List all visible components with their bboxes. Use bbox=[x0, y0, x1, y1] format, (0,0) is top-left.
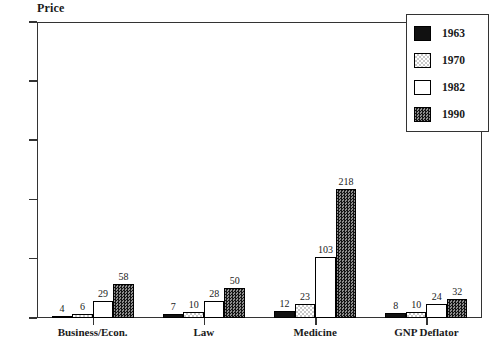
legend-swatch bbox=[414, 53, 431, 68]
bar bbox=[447, 299, 468, 318]
legend-item[interactable]: 1970 bbox=[414, 51, 465, 69]
bar bbox=[336, 189, 357, 318]
bar-value-label: 50 bbox=[230, 275, 240, 286]
bar-value-label: 58 bbox=[118, 271, 128, 282]
bar bbox=[224, 288, 245, 318]
bar-value-label: 6 bbox=[80, 301, 85, 312]
legend-label: 1982 bbox=[442, 81, 465, 93]
bar bbox=[204, 301, 225, 318]
bar-value-label: 24 bbox=[432, 291, 442, 302]
legend-swatch bbox=[414, 107, 431, 122]
bar-value-label: 32 bbox=[452, 286, 462, 297]
bar bbox=[406, 312, 427, 318]
legend-label: 1990 bbox=[442, 108, 465, 120]
legend-item[interactable]: 1963 bbox=[414, 24, 465, 42]
bar-value-label: 28 bbox=[209, 288, 219, 299]
bar bbox=[385, 313, 406, 318]
bar bbox=[315, 257, 336, 318]
legend-label: 1970 bbox=[442, 54, 465, 66]
legend-item[interactable]: 1982 bbox=[414, 78, 465, 96]
bar-value-label: 218 bbox=[338, 176, 353, 187]
bar bbox=[72, 314, 93, 318]
bar bbox=[295, 304, 316, 318]
bar-value-label: 12 bbox=[279, 298, 289, 309]
price-bar-chart: Price 0100200300400500 Business/Econ.Law… bbox=[0, 0, 489, 341]
bar-value-label: 8 bbox=[393, 300, 398, 311]
bar-value-label: 23 bbox=[300, 291, 310, 302]
bar bbox=[52, 316, 73, 318]
bar-value-label: 29 bbox=[98, 288, 108, 299]
legend-label: 1963 bbox=[442, 27, 465, 39]
bar bbox=[183, 312, 204, 318]
bar-value-label: 10 bbox=[411, 299, 421, 310]
bar bbox=[113, 284, 134, 318]
legend: 1963197019821990 bbox=[406, 14, 489, 132]
legend-swatch bbox=[414, 26, 431, 41]
bar-value-label: 4 bbox=[59, 303, 64, 314]
legend-swatch bbox=[414, 80, 431, 95]
bar bbox=[163, 314, 184, 318]
bar bbox=[93, 301, 114, 318]
bar bbox=[274, 311, 295, 318]
bar-value-label: 10 bbox=[189, 299, 199, 310]
bar bbox=[426, 304, 447, 318]
legend-item[interactable]: 1990 bbox=[414, 105, 465, 123]
bar-value-label: 7 bbox=[171, 301, 176, 312]
bar-value-label: 103 bbox=[318, 244, 333, 255]
